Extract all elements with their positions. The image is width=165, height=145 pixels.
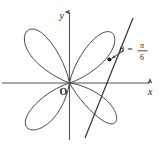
theta-symbol-label: θ: [120, 44, 125, 54]
y-axis-label: y: [59, 10, 65, 21]
origin-label: O: [60, 86, 68, 97]
fraction-numerator-pi: π: [140, 41, 145, 50]
x-axis-label: x: [147, 86, 153, 97]
petal-upper-right: [70, 32, 115, 83]
equals-symbol-label: =: [128, 44, 133, 54]
figure-canvas: θ = π 6 y x O: [0, 0, 165, 145]
petal-upper-left: [24, 29, 69, 83]
rose-curve-group: [24, 29, 116, 130]
fraction-denominator-six: 6: [140, 53, 144, 62]
intersection-point-marker: [107, 57, 111, 61]
theta-ray-line: [85, 18, 133, 138]
theta-annotation-group: θ = π 6: [120, 41, 148, 62]
polar-rose-figure: θ = π 6 y x O: [0, 0, 165, 145]
